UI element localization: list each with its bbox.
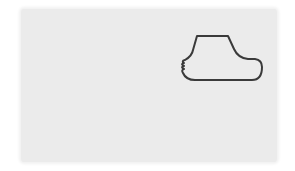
figure-canvas [0, 0, 295, 171]
foot-outline-icon [0, 0, 295, 171]
